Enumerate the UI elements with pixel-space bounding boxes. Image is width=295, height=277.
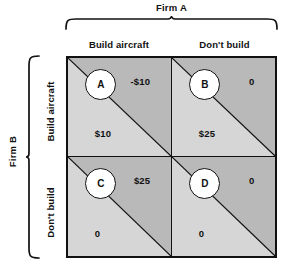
payoff-matrix-grid: -$10 $10 A 0 $25 B $25 0 C — [66, 56, 277, 258]
matrix-cell-b[interactable]: 0 $25 B — [172, 58, 275, 157]
row-brace-icon — [26, 54, 40, 260]
row-header-dont-build: Don't build — [45, 162, 56, 264]
cell-b-firm-a-payoff: 0 — [249, 76, 254, 87]
matrix-cell-d[interactable]: 0 0 D — [172, 157, 275, 256]
cell-a-firm-a-payoff: -$10 — [131, 76, 151, 87]
column-header-dont-build: Don't build — [172, 39, 277, 50]
row-header-build-aircraft: Build aircraft — [45, 61, 56, 163]
matrix-cell-a[interactable]: -$10 $10 A — [68, 58, 172, 157]
cell-d-firm-a-payoff: 0 — [249, 175, 254, 186]
cell-d-firm-b-payoff: 0 — [199, 228, 204, 239]
row-axis-title: Firm B — [7, 122, 18, 182]
cell-a-triangles — [68, 58, 171, 156]
cell-b-marker: B — [189, 69, 220, 100]
cell-c-firm-b-payoff: 0 — [95, 228, 100, 239]
matrix-cell-c[interactable]: $25 0 C — [68, 157, 172, 256]
cell-c-triangles — [68, 157, 171, 256]
payoff-matrix-figure: Firm A Firm B Build aircraft Don't build… — [0, 0, 295, 277]
cell-b-firm-b-payoff: $25 — [199, 128, 215, 139]
column-axis-title: Firm A — [66, 2, 277, 13]
cell-a-firm-b-payoff: $10 — [95, 128, 111, 139]
column-header-build-aircraft: Build aircraft — [66, 39, 172, 50]
column-brace-icon — [64, 16, 279, 30]
cell-d-triangles — [172, 157, 275, 256]
cell-b-triangles — [172, 58, 275, 156]
cell-c-firm-a-payoff: $25 — [134, 175, 150, 186]
